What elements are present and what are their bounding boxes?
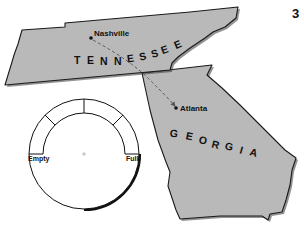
- figure-number: 3: [292, 6, 299, 21]
- tennessee-georgia-map-diagram: 3 T E N N E S S E E G E O R G I A Nashvi…: [0, 0, 304, 228]
- gauge-label-full: Full: [126, 155, 138, 162]
- city-dot-icon: [174, 106, 178, 110]
- state-letter: E: [87, 54, 94, 66]
- state-letter: T: [74, 54, 81, 66]
- georgia-state: [142, 65, 298, 222]
- state-letter: N: [114, 55, 122, 67]
- city-atlanta: Atlanta: [174, 104, 207, 113]
- city-label-nashville: Nashville: [94, 29, 130, 38]
- city-dot-icon: [89, 36, 93, 40]
- state-letter: N: [100, 55, 108, 67]
- fuel-gauge: Empty Full: [28, 99, 141, 210]
- gauge-label-empty: Empty: [28, 155, 50, 163]
- city-label-atlanta: Atlanta: [180, 104, 208, 113]
